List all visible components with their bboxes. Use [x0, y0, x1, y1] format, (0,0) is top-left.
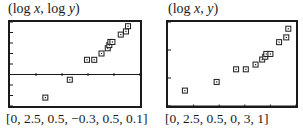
- data-point-center: [86, 59, 87, 60]
- title-text: , log: [40, 1, 68, 16]
- title-text: ): [75, 1, 80, 16]
- data-point-center: [112, 41, 113, 42]
- scatter-plot-log-log: [10, 22, 140, 106]
- title-text: (log: [168, 1, 194, 16]
- data-point-center: [127, 26, 128, 27]
- plot-title-log-linear: (log x, y): [168, 1, 218, 17]
- data-point-center: [245, 69, 246, 70]
- window-settings-label: [0, 2.5, 0.5, 0, 3, 1]: [165, 111, 269, 127]
- data-point-center: [235, 69, 236, 70]
- plot-frame: [8, 20, 142, 108]
- data-point-center: [286, 37, 287, 38]
- data-point-center: [279, 42, 280, 43]
- plot-title-log-log: (log x, log y): [8, 1, 80, 17]
- data-point-center: [94, 59, 95, 60]
- data-point-center: [69, 79, 70, 80]
- data-point-center: [45, 97, 46, 98]
- data-point-center: [266, 53, 267, 54]
- plot-frame: [166, 20, 298, 108]
- data-point-center: [120, 34, 121, 35]
- data-point-center: [101, 53, 102, 54]
- title-text: (log: [8, 1, 34, 16]
- title-text: ): [214, 1, 219, 16]
- data-point-center: [184, 90, 185, 91]
- scatter-plot-log-linear: [168, 22, 296, 106]
- window-settings-label: [0, 2.5, 0.5, −0.3, 0.5, 0.1]: [6, 111, 147, 127]
- data-point-center: [288, 28, 289, 29]
- data-point-center: [216, 81, 217, 82]
- data-point-center: [125, 31, 126, 32]
- data-point-center: [255, 64, 256, 65]
- data-point-center: [270, 53, 271, 54]
